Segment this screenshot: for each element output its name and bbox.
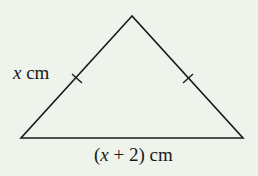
base-label: (x + 2) cm xyxy=(94,145,173,164)
left-side-label: x cm xyxy=(13,63,49,82)
base-expression-rest: + 2) xyxy=(109,144,145,165)
left-side-unit: cm xyxy=(21,62,49,83)
isosceles-triangle xyxy=(21,16,243,138)
base-unit: cm xyxy=(145,144,173,165)
base-variable: x xyxy=(100,144,108,165)
triangle-diagram: x cm (x + 2) cm xyxy=(0,0,258,176)
